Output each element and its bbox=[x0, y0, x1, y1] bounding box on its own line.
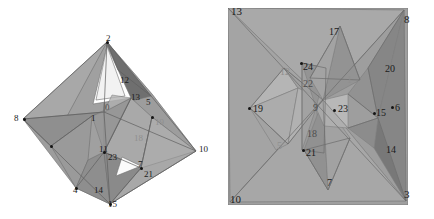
left-label-1: 1 bbox=[91, 114, 96, 123]
right-label-9: 9 bbox=[313, 103, 318, 113]
right-label-5: 5 bbox=[277, 141, 282, 151]
right-label-18: 18 bbox=[307, 129, 317, 139]
left-label-19: 19 bbox=[155, 118, 164, 127]
right-label-1: 1 bbox=[347, 75, 352, 85]
right-label-14: 14 bbox=[386, 145, 396, 155]
right-label-19: 19 bbox=[253, 104, 263, 114]
left-label-15: 15 bbox=[108, 200, 117, 209]
left-label-21: 21 bbox=[144, 170, 153, 179]
right-label-6: 6 bbox=[395, 103, 400, 113]
left-label-4: 4 bbox=[73, 186, 78, 195]
right-vertex-dot bbox=[248, 107, 251, 110]
left-label-2: 2 bbox=[106, 34, 111, 43]
right-label-15: 15 bbox=[376, 108, 386, 118]
left-label-8: 8 bbox=[14, 114, 19, 123]
right-label-20: 20 bbox=[385, 64, 395, 74]
left-faces bbox=[23, 42, 196, 204]
right-label-7: 7 bbox=[327, 178, 332, 188]
left-vertex-dot bbox=[23, 118, 26, 121]
figure-left-octahedron: 212135018191810112372141415 bbox=[0, 0, 217, 219]
left-label-12: 12 bbox=[120, 76, 129, 85]
right-corner-label-10: 10 bbox=[230, 194, 241, 205]
right-vertex-dot bbox=[333, 109, 336, 112]
left-label-18: 18 bbox=[134, 134, 143, 143]
left-label-23: 23 bbox=[108, 153, 117, 162]
right-label-23: 23 bbox=[338, 104, 348, 114]
left-label-13: 13 bbox=[131, 93, 140, 102]
right-label-24: 24 bbox=[303, 62, 313, 72]
right-vertex-dot bbox=[391, 106, 394, 109]
right-vertex-dot bbox=[302, 149, 305, 152]
right-corner-label-8: 8 bbox=[404, 14, 410, 25]
right-label-21: 21 bbox=[306, 148, 316, 158]
left-label-10: 10 bbox=[199, 145, 208, 154]
right-label-22: 22 bbox=[303, 79, 313, 89]
left-label-5: 5 bbox=[146, 98, 151, 107]
left-label-14: 14 bbox=[94, 186, 103, 195]
diagram-canvas: 212135018191810112372141415 bbox=[0, 0, 434, 219]
left-label-0: 0 bbox=[105, 103, 110, 112]
right-corner-label-3: 3 bbox=[404, 189, 410, 200]
right-corner-label-13: 13 bbox=[231, 6, 242, 17]
right-label-17: 17 bbox=[329, 27, 339, 37]
left-vertex-dot bbox=[151, 116, 154, 119]
right-label-12: 12 bbox=[280, 67, 290, 77]
figure-right-stellated: 172420122211992315618514217138103 bbox=[228, 8, 408, 205]
left-label-7: 7 bbox=[138, 160, 143, 169]
left-label-11: 11 bbox=[99, 145, 108, 154]
left-vertex-dot bbox=[50, 145, 53, 148]
